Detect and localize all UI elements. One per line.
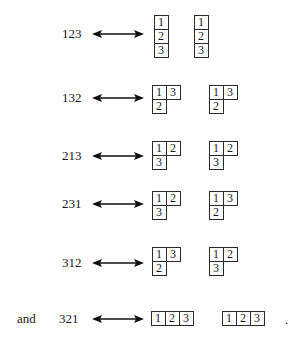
tableau-cell: 3: [209, 261, 224, 276]
tableau-cell: 3: [166, 247, 181, 262]
tableau-cell: 3: [223, 191, 238, 206]
tableau-cell: 2: [209, 99, 224, 114]
tableau-cell: 1: [152, 85, 167, 100]
tableau-cell: 2: [166, 191, 181, 206]
tableau-cell: 2: [165, 311, 180, 326]
tableau-cell: 2: [209, 205, 224, 220]
tableau-cell: 2: [223, 141, 238, 156]
tableau-cell: 2: [166, 141, 181, 156]
double-arrow-icon: [92, 258, 144, 268]
permutation-label: 321: [59, 312, 79, 326]
tableau-cell: 1: [152, 247, 167, 262]
trailing-period: .: [285, 312, 288, 328]
tableau-cell: 3: [250, 311, 265, 326]
tableau-cell: 1: [209, 85, 224, 100]
double-arrow-icon: [92, 199, 144, 209]
tableau-cell: 3: [194, 43, 209, 58]
tableau-cell: 3: [152, 205, 167, 220]
tableau-cell: 1: [209, 141, 224, 156]
tableau-cell: 3: [166, 85, 181, 100]
permutation-label: 213: [62, 149, 82, 163]
tableau-cell: 1: [151, 311, 166, 326]
tableau-cell: 3: [209, 155, 224, 170]
tableau-cell: 2: [152, 261, 167, 276]
tableau-cell: 3: [152, 155, 167, 170]
permutation-label: 132: [62, 91, 82, 105]
tableau-cell: 3: [154, 43, 169, 58]
tableau-cell: 2: [236, 311, 251, 326]
prefix-word: and: [17, 312, 36, 326]
double-arrow-icon: [92, 29, 144, 39]
tableau-cell: 1: [209, 247, 224, 262]
double-arrow-icon: [92, 93, 144, 103]
tableau-cell: 1: [194, 15, 209, 30]
tableau-cell: 1: [152, 141, 167, 156]
tableau-cell: 1: [209, 191, 224, 206]
permutation-label: 123: [62, 27, 82, 41]
double-arrow-icon: [92, 314, 144, 324]
tableau-cell: 3: [179, 311, 194, 326]
tableau-cell: 1: [222, 311, 237, 326]
tableau-cell: 2: [223, 247, 238, 262]
tableau-cell: 1: [154, 15, 169, 30]
tableau-cell: 1: [152, 191, 167, 206]
permutation-label: 312: [62, 256, 82, 270]
tableau-cell: 3: [223, 85, 238, 100]
permutation-label: 231: [62, 197, 82, 211]
tableau-cell: 2: [154, 29, 169, 44]
tableau-cell: 2: [152, 99, 167, 114]
double-arrow-icon: [92, 151, 144, 161]
tableau-cell: 2: [194, 29, 209, 44]
